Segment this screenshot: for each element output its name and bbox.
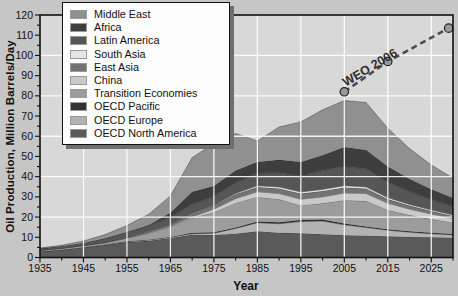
legend-item: Middle East (70, 8, 222, 21)
y-tick-label: 80 (21, 89, 33, 101)
legend-swatch (70, 10, 87, 19)
legend-label: Africa (94, 21, 122, 34)
legend: Middle EastAfricaLatin AmericaSouth Asia… (62, 2, 230, 145)
legend-label: China (94, 74, 122, 87)
x-tick-label: 2005 (333, 262, 357, 274)
legend-swatch (70, 116, 87, 125)
x-tick-label: 1975 (202, 262, 226, 274)
legend-label: Latin America (94, 34, 159, 47)
legend-swatch (70, 50, 87, 59)
x-tick-label: 1965 (159, 262, 183, 274)
y-tick-label: 10 (21, 231, 33, 243)
legend-swatch (70, 36, 87, 45)
legend-item: Latin America (70, 34, 222, 47)
legend-swatch (70, 102, 87, 111)
x-tick-label: 2015 (376, 262, 400, 274)
x-tick-label: 1985 (246, 262, 270, 274)
y-axis-title: Oil Production, Million Barrels/Day (4, 12, 19, 262)
legend-swatch (70, 89, 87, 98)
legend-label: Middle East (94, 8, 150, 21)
legend-item: South Asia (70, 48, 222, 61)
legend-item: OECD Europe (70, 114, 222, 127)
legend-item: East Asia (70, 61, 222, 74)
x-tick-label: 1995 (289, 262, 313, 274)
y-tick-label: 110 (16, 29, 33, 41)
legend-item: Africa (70, 21, 222, 34)
legend-label: OECD North America (94, 127, 197, 140)
legend-item: China (70, 74, 222, 87)
legend-swatch (70, 76, 87, 85)
x-tick-label: 1935 (28, 262, 52, 274)
y-tick-label: 50 (21, 150, 33, 162)
legend-item: OECD Pacific (70, 100, 222, 113)
x-axis-title: Year (206, 279, 286, 293)
y-tick-label: 60 (21, 130, 33, 142)
legend-label: OECD Pacific (94, 100, 160, 113)
oil-production-chart: WEO 200619351945195519651975198519952005… (0, 0, 458, 296)
y-tick-label: 70 (21, 110, 33, 122)
legend-label: South Asia (94, 48, 146, 61)
y-tick-label: 90 (21, 69, 33, 81)
legend-label: East Asia (94, 61, 139, 74)
y-tick-label: 40 (21, 170, 33, 182)
legend-item: OECD North America (70, 127, 222, 140)
y-tick-label: 0 (27, 251, 33, 263)
legend-swatch (70, 23, 87, 32)
legend-swatch (70, 63, 87, 72)
legend-label: OECD Europe (94, 114, 163, 127)
y-tick-label: 20 (21, 211, 33, 223)
x-tick-label: 1945 (72, 262, 96, 274)
x-tick-label: 1955 (115, 262, 139, 274)
y-tick-label: 30 (21, 190, 33, 202)
weo-marker (444, 24, 452, 32)
x-tick-label: 2025 (420, 262, 444, 274)
legend-label: Transition Economies (94, 87, 197, 100)
legend-item: Transition Economies (70, 87, 222, 100)
legend-swatch (70, 129, 87, 138)
